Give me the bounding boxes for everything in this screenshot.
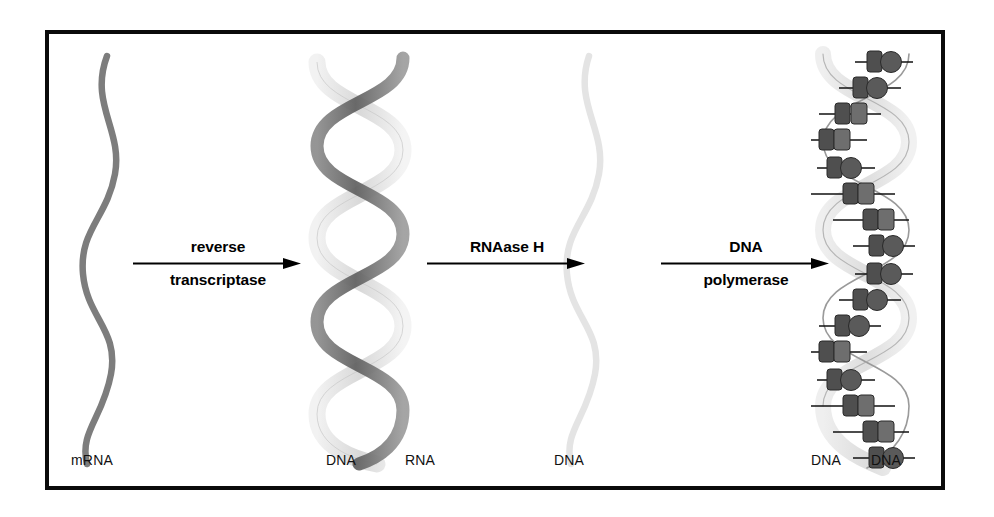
base-pair: [817, 157, 875, 179]
mrna-strand: [83, 56, 117, 464]
label-ssdna: DNA: [554, 452, 584, 468]
base-pair: [819, 315, 881, 337]
label-mrna: mRNA: [71, 452, 113, 468]
arrow-rnaase-h: RNAase H: [427, 237, 587, 270]
arrow-reverse-transcriptase: reverse transcriptase: [133, 237, 303, 290]
rna-dna-hybrid-helix: [317, 58, 403, 464]
diagram-canvas: reverse transcriptase RNAase H DNA: [49, 34, 941, 486]
base-pair: [833, 209, 909, 230]
base-pair: [811, 129, 867, 150]
label-hybrid-dna: DNA: [326, 452, 356, 468]
arrow-dna-polymerase: DNA polymerase: [661, 237, 831, 290]
arrow-shaft-icon: [427, 257, 587, 270]
arrow-label-below: transcriptase: [133, 270, 303, 290]
base-pair: [853, 235, 915, 257]
arrow-shaft-icon: [133, 257, 303, 270]
label-hybrid-rna: RNA: [405, 452, 435, 468]
arrow-label-above: DNA: [661, 237, 831, 257]
arrow-label-above: reverse: [133, 237, 303, 257]
diagram-frame: reverse transcriptase RNAase H DNA: [45, 30, 945, 490]
arrow-shaft-icon: [661, 257, 831, 270]
side-caption: [963, 28, 994, 138]
arrow-label-below: polymerase: [661, 270, 831, 290]
arrow-label-above: RNAase H: [427, 237, 587, 257]
label-dsdna-right: DNA: [871, 452, 901, 468]
figure-root: reverse transcriptase RNAase H DNA: [0, 0, 994, 517]
label-dsdna-left: DNA: [811, 452, 841, 468]
